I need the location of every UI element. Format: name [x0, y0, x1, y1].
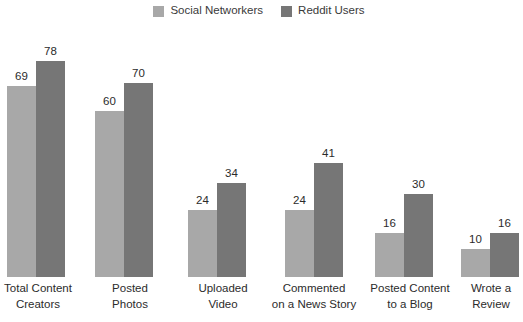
bar-item[interactable]: 16 — [490, 22, 519, 277]
bar-item[interactable]: 16 — [375, 22, 404, 277]
legend-label: Reddit Users — [298, 5, 364, 17]
bar-group: 1016 — [461, 22, 519, 277]
bar-item[interactable]: 24 — [188, 22, 217, 277]
bar-value-label: 78 — [44, 46, 57, 58]
bar-rect[interactable] — [124, 83, 153, 277]
category-label: Total Content Creators — [0, 281, 84, 312]
bar-rect[interactable] — [461, 249, 490, 277]
legend-swatch-icon — [281, 6, 292, 17]
bar-value-label: 41 — [322, 148, 335, 160]
category-axis-labels: Total Content CreatorsPosted PhotosUploa… — [0, 281, 518, 322]
bar-group-bars: 2441 — [285, 22, 343, 277]
bar-rect[interactable] — [188, 210, 217, 277]
bar-rect[interactable] — [490, 233, 519, 277]
bar-group-bars: 1630 — [375, 22, 433, 277]
bar-item[interactable]: 41 — [314, 22, 343, 277]
category-label: Uploaded Video — [177, 281, 269, 312]
bar-item[interactable]: 70 — [124, 22, 153, 277]
bar-item[interactable]: 10 — [461, 22, 490, 277]
plot-area: 697860702434244116301016 — [0, 22, 518, 277]
bar-group-bars: 6070 — [95, 22, 153, 277]
bar-value-label: 16 — [383, 218, 396, 230]
bar-rect[interactable] — [95, 111, 124, 277]
legend-label: Social Networkers — [170, 5, 263, 17]
category-label: Wrote a Review — [452, 281, 523, 312]
bar-value-label: 24 — [196, 195, 209, 207]
bar-group: 6978 — [7, 22, 65, 277]
category-label: Posted Content to a Blog — [358, 281, 462, 312]
bar-value-label: 34 — [225, 168, 238, 180]
bar-item[interactable]: 78 — [36, 22, 65, 277]
bar-rect[interactable] — [285, 210, 314, 277]
bar-item[interactable]: 34 — [217, 22, 246, 277]
bar-group-bars: 1016 — [461, 22, 519, 277]
bar-item[interactable]: 30 — [404, 22, 433, 277]
bar-group-bars: 6978 — [7, 22, 65, 277]
category-label: Commented on a News Story — [258, 281, 370, 312]
bar-rect[interactable] — [314, 163, 343, 277]
bar-rect[interactable] — [7, 86, 36, 277]
chart-legend: Social NetworkersReddit Users — [0, 3, 518, 19]
legend-swatch-icon — [153, 6, 164, 17]
bar-rect[interactable] — [217, 183, 246, 277]
bar-item[interactable]: 69 — [7, 22, 36, 277]
bar-rect[interactable] — [404, 194, 433, 277]
bar-group-bars: 2434 — [188, 22, 246, 277]
bar-value-label: 16 — [498, 218, 511, 230]
bar-value-label: 24 — [293, 195, 306, 207]
bar-value-label: 10 — [469, 234, 482, 246]
bar-rect[interactable] — [36, 61, 65, 277]
bar-group: 6070 — [95, 22, 153, 277]
bar-value-label: 69 — [15, 71, 28, 83]
bar-group: 2441 — [285, 22, 343, 277]
bar-item[interactable]: 24 — [285, 22, 314, 277]
legend-entry[interactable]: Social Networkers — [153, 5, 263, 17]
bar-value-label: 30 — [412, 179, 425, 191]
bar-group: 2434 — [188, 22, 246, 277]
bar-rect[interactable] — [375, 233, 404, 277]
bar-item[interactable]: 60 — [95, 22, 124, 277]
category-label: Posted Photos — [84, 281, 176, 312]
bar-value-label: 60 — [103, 96, 116, 108]
bar-value-label: 70 — [132, 68, 145, 80]
legend-entry[interactable]: Reddit Users — [281, 5, 364, 17]
bar-group: 1630 — [375, 22, 433, 277]
